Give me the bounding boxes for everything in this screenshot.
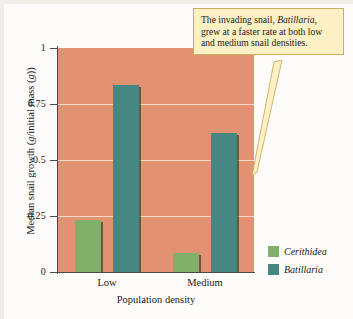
x-axis-line: [57, 272, 255, 273]
legend-swatch: [268, 246, 279, 257]
gridline: [58, 104, 254, 105]
legend-item-batillaria: Batillaria: [268, 261, 352, 277]
legend-label: Batillaria: [284, 264, 323, 275]
y-tick-label: 0.5: [0, 155, 46, 165]
plot-area: [58, 48, 254, 272]
bar-shadow: [237, 135, 239, 272]
callout-species-name: Batillaria: [277, 14, 314, 25]
bar-face: [173, 253, 199, 272]
x-axis-title: Population density: [58, 294, 254, 306]
legend-item-cerithidea: Cerithidea: [268, 243, 352, 259]
bar-cerithidea-low: [75, 220, 101, 272]
bar-batillaria-medium: [211, 133, 237, 272]
legend: CerithideaBatillaria: [268, 243, 352, 279]
bar-cerithidea-medium: [173, 253, 199, 272]
y-tick-label: 1: [0, 43, 46, 53]
y-tick-label: 0.25: [0, 211, 46, 221]
bar-shadow: [101, 222, 103, 272]
bar-face: [211, 133, 237, 272]
legend-label: Cerithidea: [284, 246, 327, 257]
bar-face: [75, 220, 101, 272]
callout-lead: The invading snail,: [201, 14, 277, 25]
figure-snail-growth-bar-chart: Median snail growth (g/initial mass (g))…: [0, 0, 353, 319]
bar-batillaria-low: [113, 85, 139, 272]
bar-shadow: [139, 87, 141, 272]
bar-face: [113, 85, 139, 272]
y-axis-ticks: 00.250.50.751: [0, 0, 58, 319]
x-category-label-medium: Medium: [165, 277, 245, 289]
legend-swatch: [268, 264, 279, 275]
y-tick-label: 0: [0, 267, 46, 277]
y-tick-label: 0.75: [0, 99, 46, 109]
bar-shadow: [199, 255, 201, 272]
callout-annotation: The invading snail, Batillaria, grew at …: [193, 8, 344, 55]
y-axis-line: [57, 46, 58, 274]
x-category-label-low: Low: [67, 277, 147, 289]
